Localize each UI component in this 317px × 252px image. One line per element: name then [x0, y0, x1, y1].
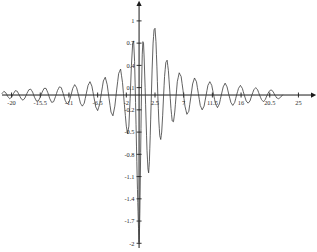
y-tick-label: -0.8 [124, 151, 134, 158]
x-tick-label: 11.5 [207, 99, 218, 106]
x-tick-label: -15.5 [34, 99, 47, 106]
x-tick-label: 25 [295, 99, 301, 106]
data-series-line [2, 28, 283, 242]
x-tick-label: 7 [182, 99, 186, 106]
plot-svg: -20-15.5-11-6.5-22.5711.51620.525 10.70.… [0, 0, 317, 252]
x-tick-label: 2.5 [151, 99, 159, 106]
x-tick-label: -11 [65, 99, 73, 106]
x-tick-label: -20 [7, 99, 16, 106]
x-tick-label: 20.5 [264, 99, 275, 106]
y-tick-label: -2 [129, 240, 134, 247]
x-tick-label: -2 [124, 99, 129, 106]
x-tick-label: -6.5 [93, 99, 103, 106]
y-tick-label: 1 [131, 17, 134, 24]
y-tick-label: -1.7 [124, 217, 135, 224]
y-tick-label: -0.5 [124, 128, 134, 135]
y-tick-label: -0.2 [124, 106, 134, 113]
x-tick-label: 16 [238, 99, 244, 106]
y-tick-label: 0.1 [127, 84, 135, 91]
y-tick-label: 0.7 [127, 39, 136, 46]
axes [2, 5, 312, 248]
y-axis-tick-labels: 10.70.40.1-0.2-0.5-0.8-1.1-1.4-1.7-2 [124, 17, 135, 246]
y-tick-label: -1.1 [124, 173, 134, 180]
data-series-group [2, 28, 283, 242]
chart-canvas: -20-15.5-11-6.5-22.5711.51620.525 10.70.… [0, 0, 317, 252]
y-tick-label: -1.4 [124, 195, 135, 202]
y-tick-label: 0.4 [127, 62, 136, 69]
